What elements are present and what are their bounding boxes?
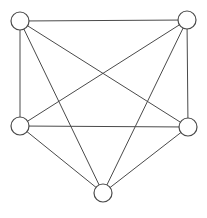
node-top-right — [178, 11, 196, 29]
node-top-left — [11, 12, 29, 30]
edge-middle-right-to-bottom — [103, 127, 188, 193]
nodes-group — [11, 11, 197, 202]
edge-middle-left-to-middle-right — [20, 126, 188, 127]
edge-top-right-to-middle-right — [187, 20, 188, 127]
edge-top-left-to-top-right — [20, 20, 187, 21]
graph-diagram — [0, 0, 207, 218]
node-middle-left — [11, 117, 29, 135]
node-bottom — [94, 184, 112, 202]
edge-middle-left-to-bottom — [20, 126, 103, 193]
edges-group — [20, 20, 188, 193]
edge-top-right-to-bottom — [103, 20, 187, 193]
node-middle-right — [179, 118, 197, 136]
